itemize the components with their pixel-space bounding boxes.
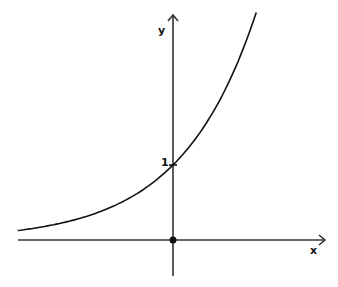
y-axis-label: y <box>158 24 165 37</box>
exponential-curve <box>18 12 256 230</box>
x-axis-label: x <box>310 244 317 257</box>
origin-dot <box>170 237 177 244</box>
intercept-label: 1 <box>161 156 169 169</box>
exponential-graph: x y 1 <box>0 0 338 287</box>
